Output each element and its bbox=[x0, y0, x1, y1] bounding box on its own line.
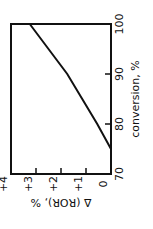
rotated-line-chart: 708090100 0+1+2+3+4 conversion, % Δ (ROR… bbox=[0, 0, 153, 229]
x-tick-label: 70 bbox=[113, 167, 126, 181]
data-line bbox=[30, 24, 111, 149]
y-tick-label: +3 bbox=[22, 176, 35, 192]
y-axis-label: Δ (ROR), % bbox=[31, 196, 92, 209]
y-tick-label: +1 bbox=[72, 176, 85, 192]
x-tick-label: 100 bbox=[113, 14, 126, 35]
x-axis-label: conversion, % bbox=[129, 60, 142, 137]
y-tick-label: +4 bbox=[0, 176, 10, 192]
y-tick-label: 0 bbox=[97, 181, 110, 188]
y-axis-ticks: 0+1+2+3+4 bbox=[0, 168, 110, 192]
plot-frame bbox=[11, 24, 111, 174]
x-axis-ticks: 708090100 bbox=[105, 14, 126, 182]
y-tick-label: +2 bbox=[47, 176, 60, 192]
x-tick-label: 80 bbox=[113, 117, 126, 131]
x-tick-label: 90 bbox=[113, 67, 126, 81]
